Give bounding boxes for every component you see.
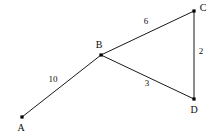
vertex-dot-c xyxy=(192,9,195,12)
edge-group xyxy=(22,11,194,117)
edge-weight-b-c: 6 xyxy=(144,16,149,26)
graph-svg: 10 6 3 2 A B C D xyxy=(0,0,213,138)
vertex-dot-d xyxy=(192,97,195,100)
vertex-label-d: D xyxy=(190,104,197,115)
edge-b-d xyxy=(101,55,194,99)
edge-weight-b-d: 3 xyxy=(145,78,150,88)
vertex-label-c: C xyxy=(200,2,207,13)
vertex-label-a: A xyxy=(17,122,25,133)
edge-weight-group: 10 6 3 2 xyxy=(49,16,204,88)
edge-a-b xyxy=(22,55,101,117)
vertex-label-b: B xyxy=(96,39,103,50)
vertex-dot-b xyxy=(99,53,102,56)
edge-weight-a-b: 10 xyxy=(49,74,59,84)
vertex-dot-group xyxy=(20,9,195,118)
graph-diagram-canvas: 10 6 3 2 A B C D xyxy=(0,0,213,138)
edge-weight-c-d: 2 xyxy=(199,46,204,56)
vertex-dot-a xyxy=(20,115,23,118)
vertex-label-group: A B C D xyxy=(17,2,206,133)
